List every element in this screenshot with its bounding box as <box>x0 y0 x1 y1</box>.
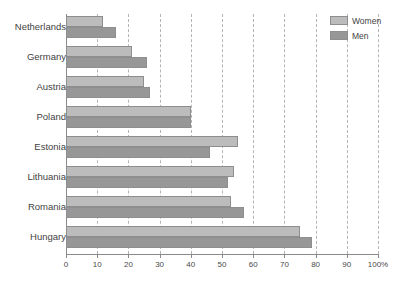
chart-row <box>66 194 378 224</box>
category-label-germany: Germany <box>0 51 66 62</box>
bar-women-estonia <box>66 136 238 147</box>
legend-label-women: Women <box>352 16 381 26</box>
legend-swatch-women-icon <box>330 16 348 25</box>
x-tick-label-10: 10 <box>93 260 102 269</box>
x-tick-label-0: 0 <box>64 260 68 269</box>
plot-area <box>66 14 378 254</box>
x-tick-label-50: 50 <box>218 260 227 269</box>
category-label-hungary: Hungary <box>0 231 66 242</box>
x-tick-label-20: 20 <box>124 260 133 269</box>
x-tick-label-100: 100% <box>368 260 388 269</box>
x-tick-label-80: 80 <box>311 260 320 269</box>
bar-men-poland <box>66 117 191 128</box>
bar-men-lithuania <box>66 177 228 188</box>
x-tick-mark-60 <box>253 254 254 258</box>
chart-row <box>66 134 378 164</box>
bar-men-germany <box>66 57 147 68</box>
category-label-romania: Romania <box>0 201 66 212</box>
x-tick-label-60: 60 <box>249 260 258 269</box>
chart-row <box>66 104 378 134</box>
x-tick-mark-80 <box>316 254 317 258</box>
bar-women-austria <box>66 76 144 87</box>
category-label-netherlands: Netherlands <box>0 21 66 32</box>
x-tick-label-40: 40 <box>186 260 195 269</box>
x-tick-mark-10 <box>97 254 98 258</box>
bar-women-lithuania <box>66 166 234 177</box>
bar-men-romania <box>66 207 244 218</box>
legend-label-men: Men <box>352 31 369 41</box>
bar-men-austria <box>66 87 150 98</box>
x-tick-mark-70 <box>284 254 285 258</box>
bar-women-germany <box>66 46 132 57</box>
bar-men-netherlands <box>66 27 116 38</box>
x-tick-mark-40 <box>191 254 192 258</box>
category-label-lithuania: Lithuania <box>0 171 66 182</box>
x-tick-label-30: 30 <box>155 260 164 269</box>
legend-swatch-men-icon <box>330 31 348 40</box>
bar-women-netherlands <box>66 16 103 27</box>
legend-item-women: Women <box>330 14 381 27</box>
x-tick-mark-30 <box>160 254 161 258</box>
category-label-estonia: Estonia <box>0 141 66 152</box>
bar-women-poland <box>66 106 191 117</box>
category-label-austria: Austria <box>0 81 66 92</box>
chart-row <box>66 44 378 74</box>
x-tick-label-70: 70 <box>280 260 289 269</box>
x-tick-mark-90 <box>347 254 348 258</box>
x-tick-mark-20 <box>128 254 129 258</box>
x-tick-label-90: 90 <box>342 260 351 269</box>
legend-item-men: Men <box>330 29 381 42</box>
x-tick-mark-50 <box>222 254 223 258</box>
x-tick-mark-0 <box>66 254 67 258</box>
category-label-poland: Poland <box>0 111 66 122</box>
bar-chart: Women Men 0102030405060708090100%Netherl… <box>0 0 402 285</box>
chart-row <box>66 224 378 254</box>
chart-legend: Women Men <box>330 14 381 44</box>
bar-men-estonia <box>66 147 210 158</box>
bar-men-hungary <box>66 237 312 248</box>
bar-women-hungary <box>66 226 300 237</box>
gridline-100 <box>378 14 379 254</box>
chart-row <box>66 74 378 104</box>
bar-women-romania <box>66 196 231 207</box>
x-tick-mark-100 <box>378 254 379 258</box>
chart-row <box>66 164 378 194</box>
